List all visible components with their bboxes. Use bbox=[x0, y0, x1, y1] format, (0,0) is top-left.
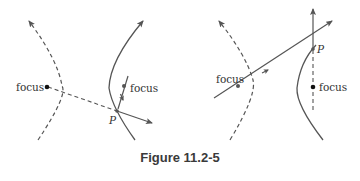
left-focus-dot bbox=[45, 85, 50, 90]
figure-caption: Figure 11.2-5 bbox=[0, 150, 360, 165]
point-p-label: P bbox=[108, 114, 117, 126]
left-focus-label: focus bbox=[16, 81, 44, 93]
right-diagram: focus focus P bbox=[214, 9, 347, 140]
incoming-ray-arrow-icon bbox=[262, 70, 268, 73]
left-focus-label: focus bbox=[216, 73, 244, 85]
dashed-focal-line bbox=[48, 87, 117, 111]
point-p-dot bbox=[311, 47, 315, 51]
right-focus-dot bbox=[122, 84, 126, 88]
left-diagram: focus focus P bbox=[16, 21, 158, 140]
point-p-label: P bbox=[316, 43, 325, 55]
incoming-ray bbox=[118, 76, 128, 109]
hyperbola-reflection-figure: focus focus P focus focus P Figure 11. bbox=[0, 0, 360, 181]
right-focus-dot bbox=[311, 85, 316, 90]
right-focus-label: focus bbox=[319, 81, 347, 93]
point-p-dot bbox=[115, 109, 119, 113]
right-focus-label: focus bbox=[130, 82, 158, 94]
